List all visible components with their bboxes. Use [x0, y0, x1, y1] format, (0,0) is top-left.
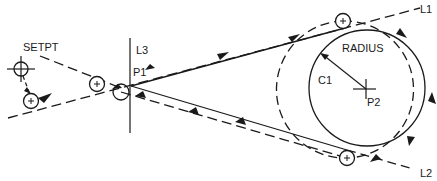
tool-position-icon	[113, 84, 129, 100]
arrow-icon	[38, 93, 52, 103]
tool-path-approach	[40, 56, 121, 88]
setpt-label: SETPT	[23, 42, 58, 53]
c1-label: C1	[318, 75, 332, 86]
tool-position-icon	[90, 77, 105, 92]
p2-label: P2	[367, 97, 380, 108]
arrow-icon	[145, 64, 155, 70]
tool-path-return	[121, 92, 347, 158]
arrow-icon	[370, 154, 381, 162]
diagram-svg	[0, 0, 437, 181]
l3-label: L3	[136, 45, 148, 56]
tool-position-icon	[340, 151, 355, 166]
l1-label: L1	[420, 4, 432, 15]
tool-position-icon	[336, 14, 351, 29]
arrow-icon	[217, 52, 229, 60]
arrow-icon	[396, 28, 407, 38]
line-l1-dashed	[8, 8, 420, 118]
radius-label: RADIUS	[342, 43, 384, 54]
p1-label: P1	[133, 67, 146, 78]
tool-position-icon	[24, 94, 39, 109]
arrow-icon	[407, 136, 415, 146]
setpt-crosshair-icon	[7, 56, 35, 82]
arrow-icon	[428, 92, 436, 104]
tool-path-diagram: SETPT L3 P1 L1 L2 RADIUS C1 P2	[0, 0, 437, 181]
l2-label: L2	[420, 168, 432, 179]
line-l2-solid	[131, 86, 347, 150]
